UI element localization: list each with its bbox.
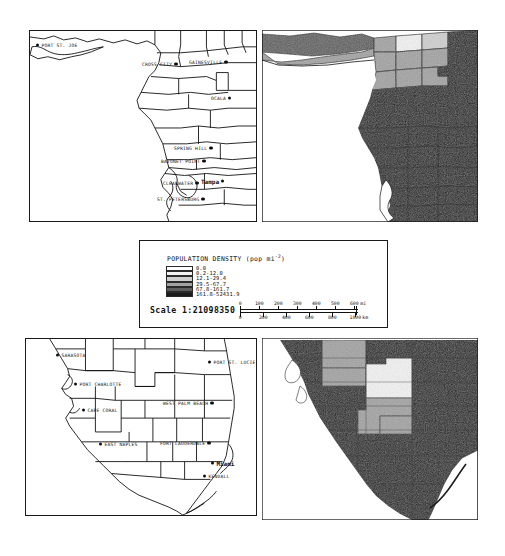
map-figure: PORT ST. JOE CROSS CITY GAINESVILLE OCAL… (0, 0, 505, 556)
scale-label-mi: 200 (274, 301, 283, 306)
city-dot (195, 181, 198, 184)
city-dot (207, 441, 210, 444)
city-dot (201, 197, 204, 200)
scale-row: Scale 1:21098350 0 100 200 300 400 500 (150, 300, 360, 320)
city-label: CROSS CITY (142, 62, 178, 67)
legend-title-main: POPULATION DENSITY (pop mi (167, 255, 275, 263)
city-dot (82, 408, 85, 411)
scale-tick-mi (354, 306, 355, 310)
city-dot (36, 43, 39, 46)
scale-label-km: 400 (282, 315, 291, 320)
city-label: Tampa (201, 178, 224, 185)
city-dot (209, 146, 212, 149)
legend-title-close: ) (281, 255, 285, 263)
scale-tick-mi (259, 306, 260, 310)
scale-label-mi: 600 (350, 301, 359, 306)
city-dot (221, 179, 224, 182)
legend-class-list: 0.0 0.2-12.0 12.1-29.4 29.5-67.7 67.8-16… (166, 266, 240, 297)
city-label: PORT ST. JOE (36, 43, 78, 48)
scale-label-mi: 500 (331, 301, 340, 306)
legend-range-label: 161.8-52431.9 (196, 292, 240, 297)
city-label: Miami (211, 460, 234, 467)
city-label: PORT ST. LUCIE (208, 360, 256, 365)
city-dot (228, 96, 231, 99)
city-dot (211, 461, 214, 464)
scale-denominator-text: Scale 1:21098350 (150, 305, 235, 315)
city-label: EAST NAPLES (99, 442, 138, 447)
scale-unit-mi: mi (360, 301, 366, 306)
north-florida-reference-map[interactable]: PORT ST. JOE CROSS CITY GAINESVILLE OCAL… (29, 30, 257, 222)
legend-box: POPULATION DENSITY (pop mi-2) 0.0 0.2-12… (139, 240, 388, 328)
city-label: PORT CHARLOTTE (74, 382, 122, 387)
city-label: WEST PALM BEACH (163, 401, 214, 406)
scale-label-mi: 300 (293, 301, 302, 306)
legend-class-row: 161.8-52431.9 (166, 292, 240, 297)
city-label: CLEARWATER (163, 181, 199, 186)
city-dot (56, 353, 59, 356)
city-dot (174, 62, 177, 65)
scale-label-mi: 400 (312, 301, 321, 306)
city-label: FORT LAUDERDALE (160, 441, 211, 446)
city-label: GAINESVILLE (189, 60, 228, 65)
south-florida-choropleth-svg (262, 338, 478, 520)
city-label: SPRING HILL (174, 146, 213, 151)
south-florida-choropleth-map[interactable] (262, 338, 478, 520)
scale-bar: 0 100 200 300 400 500 600 mi 0 200 400 6… (238, 300, 360, 320)
scale-label-km: 1000 (350, 315, 362, 320)
scale-unit-km: km (362, 315, 368, 320)
scale-tick-mi (240, 306, 241, 310)
scale-label-km: 800 (328, 315, 337, 320)
scale-label-km: 0 (239, 315, 242, 320)
city-dot (208, 360, 211, 363)
city-label: ST. PETERSBURG (157, 197, 205, 202)
legend-swatch (166, 292, 193, 297)
scale-label-mi: 100 (255, 301, 264, 306)
scale-label-km: 200 (259, 315, 268, 320)
city-label: SARASOTA (56, 353, 86, 358)
city-label: CAPE CORAL (82, 408, 118, 413)
legend-title: POPULATION DENSITY (pop mi-2) (167, 254, 285, 263)
north-florida-choropleth-map[interactable] (262, 30, 478, 222)
city-label: KENDALL (203, 474, 230, 479)
city-label: BAYONET POINT (161, 159, 206, 164)
city-dot (210, 401, 213, 404)
city-label: OCALA (211, 96, 231, 101)
scale-tick-mi (297, 306, 298, 310)
scale-label-km: 600 (305, 315, 314, 320)
scale-bar-km-axis (240, 312, 358, 313)
scale-bar-mi-axis (240, 309, 358, 310)
scale-label-mi: 0 (239, 301, 242, 306)
south-florida-outline-svg (26, 339, 256, 515)
scale-tick-mi (335, 306, 336, 310)
north-florida-choropleth-svg (262, 30, 478, 222)
south-florida-reference-map[interactable]: SARASOTA PORT ST. LUCIE PORT CHARLOTTE W… (25, 338, 257, 516)
city-dot (74, 382, 77, 385)
city-dot (203, 474, 206, 477)
city-dot (99, 442, 102, 445)
scale-tick-mi (278, 306, 279, 310)
city-dot (224, 60, 227, 63)
scale-tick-mi (316, 306, 317, 310)
city-dot (202, 159, 205, 162)
